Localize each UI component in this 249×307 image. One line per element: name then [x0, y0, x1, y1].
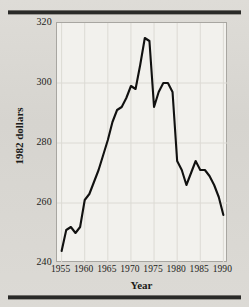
figure-root: 240260280300320 Year 1982 dollars 195519… [0, 0, 249, 307]
y-axis-title: 1982 dollars [13, 76, 25, 196]
data-line-series [57, 23, 228, 263]
y-axis-tick-labels: 240260280300320 [0, 0, 52, 307]
x-tick-label: 1990 [205, 264, 239, 274]
y-tick-label: 260 [6, 196, 52, 207]
y-tick-label: 320 [6, 16, 52, 27]
plot-area [56, 22, 227, 262]
x-axis-title: Year [56, 279, 227, 291]
